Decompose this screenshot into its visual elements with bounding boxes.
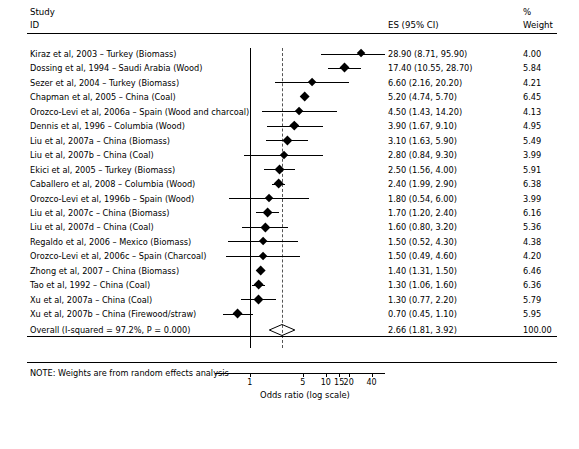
effect-marker bbox=[357, 49, 366, 58]
weight-label: 6.46 bbox=[523, 266, 541, 276]
effect-size-label: 1.50 (0.49, 4.60) bbox=[388, 251, 457, 261]
weight-label: 5.49 bbox=[523, 136, 541, 146]
effect-size-label: 17.40 (10.55, 28.70) bbox=[388, 63, 473, 73]
weight-label: 5.36 bbox=[523, 222, 541, 232]
x-axis-title: Odds ratio (log scale) bbox=[215, 390, 395, 400]
study-label: Liu et al, 2007a – China (Biomass) bbox=[30, 136, 170, 146]
header-weight: Weight bbox=[523, 20, 553, 31]
effect-marker bbox=[339, 63, 349, 73]
forest-plot-figure: Study ID ES (95% CI) % Weight Kiraz et a… bbox=[0, 0, 579, 449]
study-label: Xu et al, 2007a – China (Coal) bbox=[30, 295, 152, 305]
axis-tick bbox=[326, 373, 327, 377]
weight-label: 6.36 bbox=[523, 280, 541, 290]
effect-size-label: 2.50 (1.56, 4.00) bbox=[388, 165, 457, 175]
effect-size-label: 2.40 (1.99, 2.90) bbox=[388, 179, 457, 189]
axis-tick bbox=[250, 373, 251, 377]
effect-size-label: 2.80 (0.84, 9.30) bbox=[388, 150, 457, 160]
effect-marker bbox=[260, 222, 270, 232]
effect-marker bbox=[259, 237, 268, 246]
weight-label: 5.79 bbox=[523, 295, 541, 305]
weight-label: 5.95 bbox=[523, 309, 541, 319]
effect-size-label: 0.70 (0.45, 1.10) bbox=[388, 309, 457, 319]
study-label: Liu et al, 2007c – China (Biomass) bbox=[30, 208, 169, 218]
axis-line bbox=[215, 373, 385, 374]
weight-label: 5.91 bbox=[523, 165, 541, 175]
effect-size-label: 1.80 (0.54, 6.00) bbox=[388, 194, 457, 204]
effect-marker bbox=[256, 265, 266, 275]
effect-marker bbox=[233, 309, 243, 319]
header-id: ID bbox=[30, 20, 39, 31]
header-rule bbox=[27, 33, 557, 34]
plot-area bbox=[215, 48, 385, 348]
study-label: Chapman et al, 2005 – China (Coal) bbox=[30, 92, 176, 102]
effect-size-label: 6.60 (2.16, 20.20) bbox=[388, 78, 462, 88]
weight-label: 3.99 bbox=[523, 194, 541, 204]
header-study: Study bbox=[30, 7, 55, 18]
effect-size-label: 28.90 (8.71, 95.90) bbox=[388, 49, 467, 59]
effect-size-label: 1.60 (0.80, 3.20) bbox=[388, 222, 457, 232]
axis-tick bbox=[349, 373, 350, 377]
study-label: Sezer et al, 2004 – Turkey (Biomass) bbox=[30, 78, 179, 88]
axis-tick-label: 10 bbox=[321, 378, 331, 387]
weight-label: 5.84 bbox=[523, 63, 541, 73]
effect-marker bbox=[262, 207, 272, 217]
weight-label: 6.45 bbox=[523, 92, 541, 102]
axis-tick-label: 1 bbox=[247, 378, 252, 387]
weight-label: 4.20 bbox=[523, 251, 541, 261]
effect-marker bbox=[295, 107, 304, 116]
effect-size-label: 4.50 (1.43, 14.20) bbox=[388, 107, 462, 117]
weight-label: 4.38 bbox=[523, 237, 541, 247]
effect-size-label: 1.30 (0.77, 2.20) bbox=[388, 295, 457, 305]
overall-label: Overall (I-squared = 97.2%, P = 0.000) bbox=[30, 325, 190, 335]
weight-label: 6.16 bbox=[523, 208, 541, 218]
study-label: Dossing et al, 1994 – Saudi Arabia (Wood… bbox=[30, 63, 202, 73]
overall-weight-label: 100.00 bbox=[523, 325, 552, 335]
effect-marker bbox=[308, 78, 317, 87]
study-label: Tao et al, 1992 – China (Coal) bbox=[30, 280, 150, 290]
effect-size-label: 1.50 (0.52, 4.30) bbox=[388, 237, 457, 247]
header-es: ES (95% CI) bbox=[388, 20, 439, 31]
weight-label: 4.13 bbox=[523, 107, 541, 117]
effect-marker bbox=[299, 92, 309, 102]
effect-marker bbox=[265, 194, 274, 203]
overall-effect-size-label: 2.66 (1.81, 3.92) bbox=[388, 325, 457, 335]
effect-marker bbox=[259, 251, 268, 260]
effect-marker bbox=[275, 164, 285, 174]
effect-size-label: 3.90 (1.67, 9.10) bbox=[388, 121, 457, 131]
study-label: Caballero et al, 2008 – Columbia (Wood) bbox=[30, 179, 195, 189]
header-percent: % bbox=[523, 7, 531, 18]
effect-size-label: 5.20 (4.74, 5.70) bbox=[388, 92, 457, 102]
effect-marker bbox=[290, 121, 299, 130]
axis-tick-label: 20 bbox=[344, 378, 354, 387]
overall-rule-bottom bbox=[27, 362, 557, 363]
effect-marker bbox=[282, 135, 292, 145]
study-label: Liu et al, 2007d – China (Coal) bbox=[30, 222, 154, 232]
effect-size-label: 1.70 (1.20, 2.40) bbox=[388, 208, 457, 218]
effect-marker bbox=[253, 280, 263, 290]
axis-tick-label: 5 bbox=[300, 378, 305, 387]
weight-label: 4.21 bbox=[523, 78, 541, 88]
study-label: Xu et al, 2007b – China (Firewood/straw) bbox=[30, 309, 196, 319]
effect-size-label: 3.10 (1.63, 5.90) bbox=[388, 136, 457, 146]
study-label: Orozco-Levi et al, 2006c – Spain (Charco… bbox=[30, 251, 207, 261]
axis-tick-label: 40 bbox=[367, 378, 377, 387]
weight-label: 6.38 bbox=[523, 179, 541, 189]
study-label: Regaldo et al, 2006 – Mexico (Biomass) bbox=[30, 237, 191, 247]
weights-note: NOTE: Weights are from random effects an… bbox=[30, 368, 229, 378]
axis-tick bbox=[339, 373, 340, 377]
weight-label: 3.99 bbox=[523, 150, 541, 160]
axis-tick bbox=[372, 373, 373, 377]
study-label: Kiraz et al, 2003 – Turkey (Biomass) bbox=[30, 49, 176, 59]
effect-marker bbox=[253, 294, 263, 304]
study-label: Dennis et al, 1996 – Columbia (Wood) bbox=[30, 121, 185, 131]
weight-label: 4.95 bbox=[523, 121, 541, 131]
effect-marker bbox=[279, 150, 288, 159]
study-label: Orozco-Levi et al, 1996b – Spain (Wood) bbox=[30, 194, 194, 204]
study-label: Liu et al, 2007b – China (Coal) bbox=[30, 150, 154, 160]
confidence-interval-line bbox=[321, 54, 385, 55]
study-label: Zhong et al, 2007 – China (Biomass) bbox=[30, 266, 179, 276]
effect-size-label: 1.40 (1.31, 1.50) bbox=[388, 266, 457, 276]
weight-label: 4.00 bbox=[523, 49, 541, 59]
overall-rule-top bbox=[27, 336, 557, 337]
study-label: Ekici et al, 2005 – Turkey (Biomass) bbox=[30, 165, 175, 175]
